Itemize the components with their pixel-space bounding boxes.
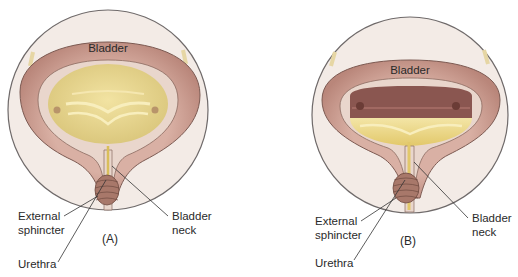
ureteral-orifice-right: [152, 107, 159, 114]
contracted-detrusor: [350, 86, 472, 118]
external-sphincter-label: sphincter: [18, 224, 65, 236]
panel-a: Bladder External sphincter (A) Urethra B…: [8, 10, 212, 270]
panel-b: Bladder External sphincter (B) Urethra B…: [312, 17, 512, 269]
bladder-neck-label: Bladder: [472, 212, 512, 224]
bladder-neck-label: neck: [172, 224, 197, 236]
bladder-neck-label: Bladder: [172, 210, 212, 222]
ureteral-orifice-right: [452, 102, 460, 110]
bladder-neck-label: neck: [472, 226, 497, 238]
external-sphincter-label: External: [18, 210, 60, 222]
external-sphincter-label: External: [315, 215, 357, 227]
bladder-diagram: Bladder External sphincter (A) Urethra B…: [0, 0, 518, 277]
panel-label: (A): [102, 232, 118, 246]
bladder-label: Bladder: [88, 42, 128, 54]
external-sphincter: [393, 173, 419, 203]
ureteral-orifice-left: [356, 102, 364, 110]
urethra-label: Urethra: [18, 258, 57, 270]
panel-label: (B): [400, 234, 416, 248]
ureteral-orifice-left: [54, 107, 61, 114]
urethra-label: Urethra: [315, 257, 354, 269]
bladder-label: Bladder: [390, 64, 430, 76]
external-sphincter-label: sphincter: [315, 229, 362, 241]
external-sphincter: [95, 175, 119, 205]
